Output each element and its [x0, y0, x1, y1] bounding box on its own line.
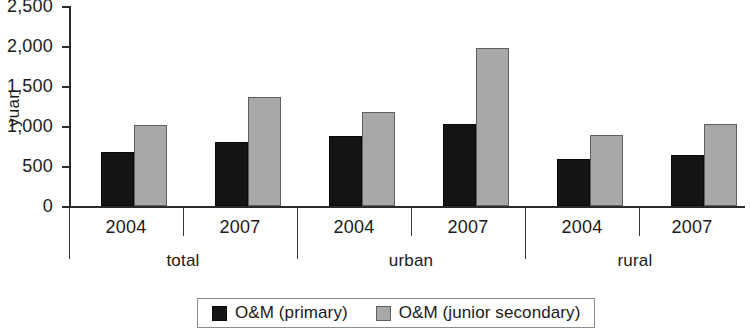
year-label: 2007 [184, 217, 296, 238]
plot-area: 05001,0001,5002,0002,500 [69, 6, 745, 208]
legend-swatch-primary-icon [212, 306, 227, 321]
year-label: 2004 [70, 217, 182, 238]
y-axis-tick: 2,000 [62, 46, 69, 48]
group-label: total [93, 251, 273, 271]
legend-swatch-junior-secondary-icon [376, 306, 391, 321]
bar-junior-secondary-4 [590, 135, 623, 206]
group-label: rural [545, 251, 725, 271]
bar-primary-4 [557, 159, 590, 206]
legend-item-primary: O&M (primary) [212, 303, 348, 323]
y-axis-tick: 500 [62, 166, 69, 168]
legend-item-junior-secondary: O&M (junior secondary) [376, 303, 581, 323]
group-label: urban [321, 251, 501, 271]
bar-junior-secondary-3 [476, 48, 509, 206]
y-axis-tick-label: 500 [22, 156, 53, 177]
year-label: 2007 [636, 217, 748, 238]
y-axis-tick-label: 2,500 [7, 0, 53, 17]
bar-junior-secondary-2 [362, 112, 395, 206]
y-axis-line [69, 6, 71, 208]
bar-chart: yuan 05001,0001,5002,0002,500 2004200720… [0, 0, 750, 333]
y-axis-tick-label: 0 [43, 196, 53, 217]
year-label: 2007 [412, 217, 524, 238]
y-axis-tick: 2,500 [62, 6, 69, 8]
legend-label-primary: O&M (primary) [235, 303, 348, 323]
bar-junior-secondary-0 [134, 125, 167, 206]
y-axis-tick-label: 2,000 [7, 36, 53, 57]
y-axis-tick: 1,000 [62, 126, 69, 128]
y-axis-tick-label: 1,500 [7, 76, 53, 97]
bar-primary-5 [671, 155, 704, 206]
y-axis-tick: 0 [62, 206, 69, 208]
y-axis-tick: 1,500 [62, 86, 69, 88]
bar-primary-0 [101, 152, 134, 206]
bar-primary-2 [329, 136, 362, 206]
year-label: 2004 [526, 217, 638, 238]
bar-junior-secondary-5 [704, 124, 737, 206]
bar-primary-3 [443, 124, 476, 206]
bar-junior-secondary-1 [248, 97, 281, 206]
chart-legend: O&M (primary) O&M (junior secondary) [197, 298, 595, 328]
bar-primary-1 [215, 142, 248, 206]
y-axis-tick-label: 1,000 [7, 116, 53, 137]
category-axis: 200420072004200720042007totalurbanrural [69, 208, 745, 270]
year-label: 2004 [298, 217, 410, 238]
legend-label-junior-secondary: O&M (junior secondary) [399, 303, 581, 323]
